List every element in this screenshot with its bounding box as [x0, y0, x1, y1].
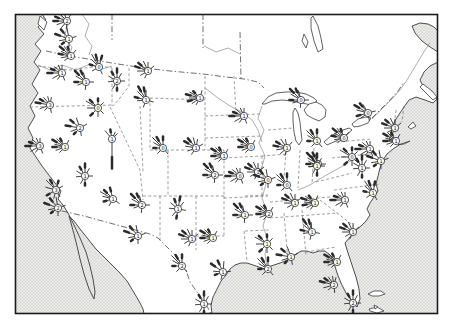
calm-percentage-digit: 0 [249, 144, 252, 150]
heavy-ray-tip [135, 97, 138, 98]
calm-percentage-digit: 2 [65, 18, 68, 24]
heavy-ray-tip [137, 194, 139, 198]
calm-percentage-digit: 3 [38, 143, 41, 149]
calm-percentage-digit: 1 [190, 236, 193, 242]
calm-percentage-digit: 2 [180, 263, 183, 269]
heavy-ray-tip [313, 153, 315, 157]
heavy-ray-tip [174, 199, 175, 202]
heavy-ray-tip [179, 197, 180, 201]
calm-percentage-digit: 1 [265, 241, 268, 247]
calm-percentage-digit: 1 [351, 229, 354, 235]
heavy-ray-tip [124, 231, 129, 233]
calm-percentage-digit: 1 [144, 97, 147, 103]
heavy-ray-tip [210, 164, 212, 168]
heavy-ray-tip [332, 254, 333, 256]
heavy-ray-tip [112, 72, 114, 75]
calm-percentage-digit: 1 [110, 136, 113, 142]
heavy-ray-tip [90, 65, 93, 66]
calm-percentage-digit: 3 [54, 187, 57, 193]
calm-percentage-digit: 1 [368, 146, 371, 152]
heavy-ray-tip [193, 91, 195, 93]
calm-percentage-digit: 1 [222, 153, 225, 159]
heavy-ray-tip [229, 172, 232, 173]
calm-percentage-digit: 1 [289, 254, 292, 260]
heavy-ray-tip [274, 146, 278, 147]
heavy-ray-tip [188, 100, 192, 101]
heavy-ray-tip [382, 123, 386, 125]
calm-percentage-digit: 1 [315, 138, 318, 144]
calm-percentage-digit: 2 [267, 211, 270, 217]
heavy-ray-tip [324, 278, 327, 280]
heavy-ray-tip [296, 89, 298, 93]
heavy-ray-tip [303, 204, 307, 205]
calm-percentage-digit: 1 [136, 233, 139, 239]
heavy-ray-tip [36, 102, 41, 103]
calm-percentage-digit: 2 [213, 172, 216, 178]
heavy-ray-tip [367, 156, 372, 158]
heavy-ray-tip [281, 174, 283, 178]
calm-percentage-digit: 1 [310, 229, 313, 235]
heavy-ray-tip [301, 230, 305, 231]
heavy-ray-tip [261, 184, 263, 185]
calm-percentage-digit: 1 [69, 53, 72, 59]
calm-percentage-digit: 1 [360, 165, 363, 171]
heavy-ray-tip [74, 132, 76, 134]
calm-percentage-digit: 1 [67, 36, 70, 42]
heavy-ray-tip [62, 43, 64, 44]
calm-percentage-digit: 2 [56, 205, 59, 211]
calm-percentage-digit: 1 [315, 163, 318, 169]
heavy-ray-tip [340, 227, 344, 229]
heavy-ray-tip [348, 294, 350, 297]
heavy-ray-tip [47, 194, 50, 196]
heavy-ray-tip [264, 206, 265, 208]
calm-percentage-digit: 3 [48, 102, 51, 108]
heavy-ray-tip [341, 129, 342, 132]
heavy-ray-tip [59, 54, 63, 55]
heavy-ray-tip [369, 181, 370, 185]
heavy-ray-tip [176, 255, 178, 259]
heavy-ray-tip [345, 162, 347, 164]
calm-percentage-digit: 1 [211, 235, 214, 241]
calm-percentage-digit: 1 [176, 206, 179, 212]
calm-percentage-digit: 0 [299, 97, 302, 103]
calm-percentage-digit: 0 [342, 135, 345, 141]
calm-percentage-digit: 2 [332, 282, 335, 288]
calm-percentage-digit: 1 [343, 197, 346, 203]
heavy-ray-tip [359, 145, 362, 146]
calm-percentage-digit: 1 [313, 200, 316, 206]
heavy-ray-tip [309, 220, 310, 224]
heavy-ray-tip [301, 198, 306, 200]
heavy-ray-tip [50, 180, 52, 183]
heavy-ray-tip [179, 234, 183, 236]
calm-percentage-digit: 1 [335, 259, 338, 265]
calm-percentage-digit: 1 [111, 196, 114, 202]
heavy-ray-tip [219, 148, 220, 150]
heavy-ray-tip [332, 136, 336, 137]
calm-percentage-digit: 1 [371, 190, 374, 196]
heavy-ray-tip [262, 258, 264, 262]
heavy-ray-tip [135, 66, 139, 68]
heavy-ray-tip [285, 261, 287, 263]
heavy-ray-tip [81, 71, 83, 75]
heavy-ray-tip [282, 198, 286, 200]
heavy-ray-tip [96, 55, 97, 59]
heavy-ray-tip [218, 261, 220, 265]
heavy-ray-tip [246, 139, 247, 141]
heavy-ray-tip [131, 240, 133, 241]
heavy-ray-tip [157, 137, 159, 141]
calm-percentage-digit: 1 [393, 125, 396, 131]
calm-percentage-digit: 1 [194, 145, 197, 151]
calm-percentage-digit: 0 [366, 110, 369, 116]
heavy-ray-tip [233, 112, 236, 113]
frequency-ray [213, 271, 219, 272]
heavy-ray-tip [60, 139, 61, 141]
heavy-ray-tip [80, 167, 82, 170]
heavy-ray-tip [51, 69, 54, 70]
heavy-ray-tip [357, 159, 359, 162]
calm-percentage-digit: 1 [63, 144, 66, 150]
calm-percentage-digit: 0 [266, 177, 269, 183]
calm-percentage-digit: 0 [97, 64, 100, 70]
calm-percentage-digit: 0 [161, 145, 164, 151]
heavy-ray-tip [357, 115, 360, 116]
heavy-ray-tip [254, 175, 259, 177]
